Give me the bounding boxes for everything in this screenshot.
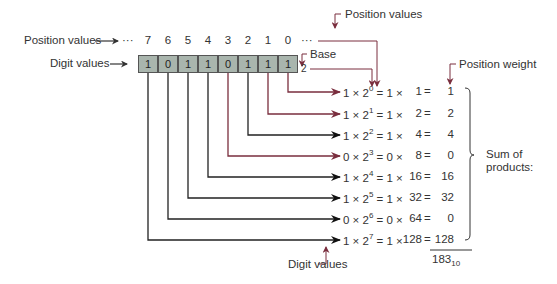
digit-values-bottom-label: Digit values <box>288 258 347 270</box>
digit-cell-5: 1 <box>178 55 198 73</box>
digit-cell-3: 0 <box>218 55 238 73</box>
position-weight-label: Position weight <box>459 58 536 70</box>
sum-of-products-label-2: products: <box>486 161 533 173</box>
digit-cell-7: 1 <box>138 55 158 73</box>
position-4: 4 <box>201 34 215 46</box>
digit-cell-6: 0 <box>158 55 178 73</box>
sum-of-products-label-1: Sum of <box>486 148 522 160</box>
digit-cell-0: 1 <box>278 55 298 73</box>
position-values-label: Position values <box>24 34 101 46</box>
ellipsis-right: ··· <box>301 34 313 46</box>
digit-cell-4: 1 <box>198 55 218 73</box>
result-7: 128 <box>430 233 454 245</box>
position-1: 1 <box>261 34 275 46</box>
ellipsis-left: ··· <box>122 34 134 46</box>
position-5: 5 <box>181 34 195 46</box>
result-6: 0 <box>430 212 454 224</box>
position-3: 3 <box>221 34 235 46</box>
base-value: 2 <box>301 63 307 74</box>
digit-values-label: Digit values <box>50 57 109 69</box>
sum-total: 18310 <box>432 253 460 268</box>
result-1: 2 <box>430 107 454 119</box>
digit-cell-1: 1 <box>258 55 278 73</box>
position-6: 6 <box>161 34 175 46</box>
base-label: Base <box>310 48 336 60</box>
digit-cell-2: 1 <box>238 55 258 73</box>
result-5: 32 <box>430 191 454 203</box>
position-values-top-label: Position values <box>345 8 422 20</box>
result-4: 16 <box>430 170 454 182</box>
result-3: 0 <box>430 149 454 161</box>
result-0: 1 <box>430 85 454 97</box>
position-2: 2 <box>241 34 255 46</box>
result-2: 4 <box>430 128 454 140</box>
position-7: 7 <box>141 34 155 46</box>
position-0: 0 <box>281 34 295 46</box>
